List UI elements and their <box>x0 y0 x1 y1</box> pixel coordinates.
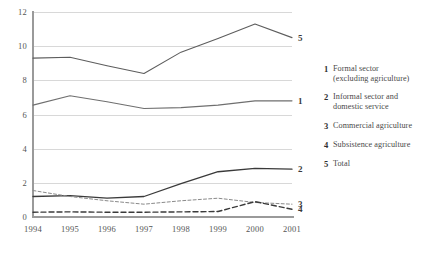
legend-item-3: 3Commercial agriculture <box>324 121 416 131</box>
y-tick-label: 10 <box>18 41 27 51</box>
x-tick-label: 1998 <box>172 224 190 234</box>
chart-legend: 1Formal sector (excluding agriculture)2I… <box>310 0 424 256</box>
legend-number: 4 <box>324 140 333 150</box>
legend-item-1: 1Formal sector (excluding agriculture) <box>324 64 416 83</box>
legend-item-4: 4Subsistence agriculture <box>324 140 416 150</box>
series-line-5 <box>33 24 292 74</box>
series-lines <box>33 12 292 217</box>
y-tick-label: 12 <box>18 7 27 17</box>
legend-item-5: 5Total <box>324 159 416 169</box>
y-tick-label: 8 <box>23 75 27 85</box>
x-tick-label: 1997 <box>135 224 153 234</box>
x-tick-label: 1994 <box>24 224 42 234</box>
x-axis-tick-labels: 19941995199619971998199920002001 <box>33 224 292 238</box>
y-axis-tick-labels: 024681012 <box>0 12 27 217</box>
legend-number: 2 <box>324 92 333 102</box>
legend-number: 1 <box>324 64 333 74</box>
legend-label: Commercial agriculture <box>333 121 412 131</box>
line-chart: 024681012 199419951996199719981999200020… <box>0 0 310 256</box>
legend-label: Total <box>333 159 350 169</box>
x-tick-label: 1996 <box>98 224 116 234</box>
series-end-label-5: 5 <box>298 33 303 43</box>
legend-label: Subsistence agriculture <box>333 140 410 150</box>
y-tick-label: 4 <box>23 144 27 154</box>
x-tick-label: 1999 <box>209 224 227 234</box>
series-line-1 <box>33 96 292 109</box>
series-end-label-2: 2 <box>298 164 303 174</box>
x-tick-label: 2001 <box>283 224 301 234</box>
legend-label: Informal sector and domestic service <box>333 92 416 111</box>
chart-page: 024681012 199419951996199719981999200020… <box>0 0 424 256</box>
series-end-label-4: 4 <box>298 204 303 214</box>
series-end-label-1: 1 <box>298 96 303 106</box>
legend-number: 3 <box>324 121 333 131</box>
x-tick-label: 2000 <box>246 224 264 234</box>
legend-item-2: 2Informal sector and domestic service <box>324 92 416 111</box>
series-line-2 <box>33 168 292 198</box>
y-tick-label: 0 <box>23 212 27 222</box>
series-line-4 <box>33 202 292 213</box>
legend-number: 5 <box>324 159 333 169</box>
y-tick-label: 6 <box>23 110 27 120</box>
legend-label: Formal sector (excluding agriculture) <box>333 64 416 83</box>
x-tick-label: 1995 <box>61 224 79 234</box>
y-tick-label: 2 <box>23 178 27 188</box>
